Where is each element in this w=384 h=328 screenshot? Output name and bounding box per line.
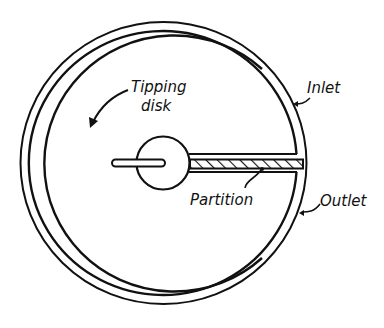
tipping-disk-arrow — [93, 90, 128, 122]
outlet-leader-tip-icon — [299, 210, 304, 216]
label-tipping: Tipping — [131, 78, 187, 96]
label-inlet: Inlet — [307, 79, 341, 97]
pivot-slot — [112, 160, 165, 167]
label-disk: disk — [141, 97, 173, 115]
tipping-disk-arrowhead-icon — [89, 117, 98, 128]
outlet-leader — [302, 204, 320, 212]
label-outlet: Outlet — [320, 192, 368, 210]
tipping-disk-diagram: Tipping disk Inlet Outlet Partition — [0, 0, 384, 328]
label-partition: Partition — [190, 191, 253, 209]
partition-plate — [190, 160, 303, 169]
partition-leader-dot-icon — [260, 167, 264, 171]
